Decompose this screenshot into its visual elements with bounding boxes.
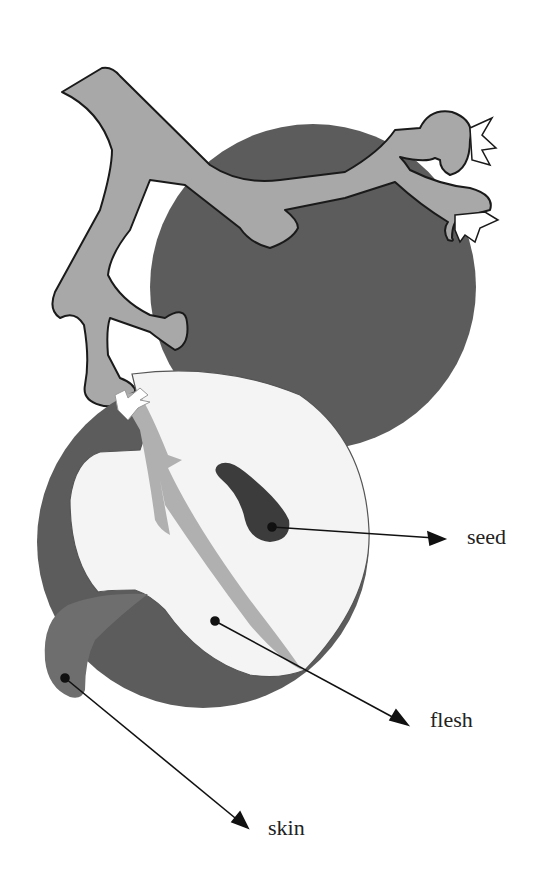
skin-arrowhead (232, 812, 248, 828)
skin-label: skin (268, 815, 305, 840)
grape-diagram: seed flesh skin (0, 0, 540, 891)
seed-label: seed (467, 524, 506, 549)
flesh-arrowhead (390, 710, 408, 725)
flesh-label: flesh (430, 707, 473, 732)
stem-tuft-lower (455, 212, 498, 242)
stem-tuft-upper (470, 118, 496, 165)
seed-arrowhead (428, 532, 445, 545)
